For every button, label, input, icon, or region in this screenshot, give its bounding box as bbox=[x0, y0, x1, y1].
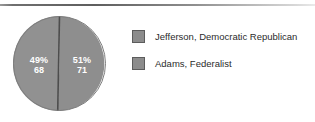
top-divider-rule bbox=[0, 4, 315, 6]
legend-item-adams[interactable]: Adams, Federalist bbox=[132, 56, 312, 71]
legend-swatch-icon bbox=[132, 57, 145, 70]
slice-value-jefferson: 71 bbox=[63, 65, 101, 75]
chart-legend: Jefferson, Democratic Republican Adams, … bbox=[132, 29, 312, 83]
slice-label-adams: 49% 68 bbox=[19, 55, 59, 75]
pie-chart-graphic: 49% 68 51% 71 bbox=[13, 16, 106, 111]
slice-value-adams: 68 bbox=[19, 65, 59, 75]
legend-item-label: Jefferson, Democratic Republican bbox=[155, 31, 297, 43]
slice-label-jefferson: 51% 71 bbox=[63, 55, 101, 75]
pie-chart-figure: 49% 68 51% 71 Jefferson, Democratic Repu… bbox=[0, 0, 315, 122]
legend-swatch-icon bbox=[132, 30, 145, 43]
legend-item-label: Adams, Federalist bbox=[155, 58, 232, 70]
slice-percent-jefferson: 51% bbox=[63, 55, 101, 65]
legend-item-jefferson[interactable]: Jefferson, Democratic Republican bbox=[132, 29, 312, 44]
slice-percent-adams: 49% bbox=[19, 55, 59, 65]
